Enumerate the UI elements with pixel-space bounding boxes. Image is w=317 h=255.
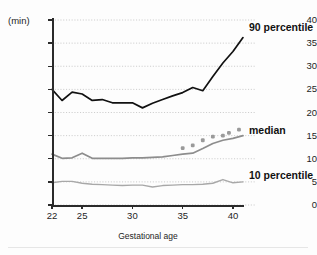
y-tick-mark	[48, 181, 52, 182]
y-tick-mark	[48, 66, 52, 67]
scatter-point	[221, 134, 225, 138]
y-tick-label: 30	[271, 61, 317, 70]
y-tick-mark	[48, 112, 52, 113]
scatter-point	[181, 146, 185, 150]
y-tick-label: 0	[271, 200, 317, 209]
series-label-p10: 10 percentile	[249, 169, 313, 181]
p10-series-line	[52, 180, 243, 187]
y-tick-mark	[48, 89, 52, 90]
y-tick-mark	[48, 135, 52, 136]
y-axis-line	[52, 18, 54, 207]
bottom-divider	[8, 247, 308, 248]
x-tick-mark	[182, 205, 183, 209]
x-tick-label: 35	[168, 210, 198, 221]
x-tick-label: 40	[218, 210, 248, 221]
scatter-point	[227, 131, 231, 135]
x-tick-label: 22	[37, 210, 67, 221]
x-tick-mark	[81, 205, 82, 209]
scatter-point	[191, 143, 195, 147]
x-axis-title: Gestational age	[0, 231, 296, 241]
y-tick-label: 20	[271, 108, 317, 117]
scatter-point	[237, 128, 241, 132]
chart-figure: (min) 0510152025303540 2225303540 90 per…	[0, 0, 317, 255]
scatter-point	[211, 135, 215, 139]
y-tick-label: 10	[271, 154, 317, 163]
x-tick-label: 30	[117, 210, 147, 221]
x-tick-mark	[51, 205, 52, 209]
y-tick-label: 35	[271, 38, 317, 47]
median-series-line	[52, 136, 243, 159]
gridlines-group	[52, 20, 255, 205]
y-tick-label: 25	[271, 84, 317, 93]
y-tick-mark	[48, 42, 52, 43]
p90-series-line	[52, 38, 243, 108]
x-tick-mark	[232, 205, 233, 209]
x-axis-line	[51, 205, 244, 207]
y-tick-mark	[48, 19, 52, 20]
x-tick-label: 25	[67, 210, 97, 221]
series-label-p90: 90 percentile	[249, 21, 313, 33]
x-tick-mark	[132, 205, 133, 209]
y-tick-mark	[48, 158, 52, 159]
series-label-median: median	[249, 124, 286, 136]
plot-area: (min) 0510152025303540 2225303540 90 per…	[0, 0, 317, 255]
scatter-point	[201, 138, 205, 142]
